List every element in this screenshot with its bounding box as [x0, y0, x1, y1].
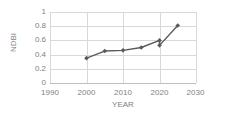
gridline-vertical — [160, 12, 161, 83]
x-axis-line — [50, 83, 196, 84]
x-axis-title: YEAR — [50, 100, 196, 109]
y-tick-label: 0 — [2, 79, 46, 87]
x-tick-label: 1990 — [30, 88, 70, 97]
x-tick-label: 2000 — [67, 88, 107, 97]
gridline-vertical — [123, 12, 124, 83]
y-tick-label: 1 — [2, 8, 46, 16]
x-tick-label: 2030 — [176, 88, 216, 97]
ndbi-year-chart: 1 0.8 0.6 0.4 0.2 0 NDBI 1990 2000 2010 … — [0, 0, 237, 119]
y-axis-title: NDBI — [9, 23, 18, 63]
x-tick-label: 2010 — [103, 88, 143, 97]
gridline-vertical — [87, 12, 88, 83]
plot-area — [50, 12, 196, 83]
gridline-vertical — [196, 12, 197, 83]
y-tick-label: 0.2 — [2, 65, 46, 73]
gridline-vertical — [50, 12, 51, 83]
x-tick-label: 2020 — [140, 88, 180, 97]
y-axis-tick-labels: 1 0.8 0.6 0.4 0.2 0 — [0, 0, 46, 119]
